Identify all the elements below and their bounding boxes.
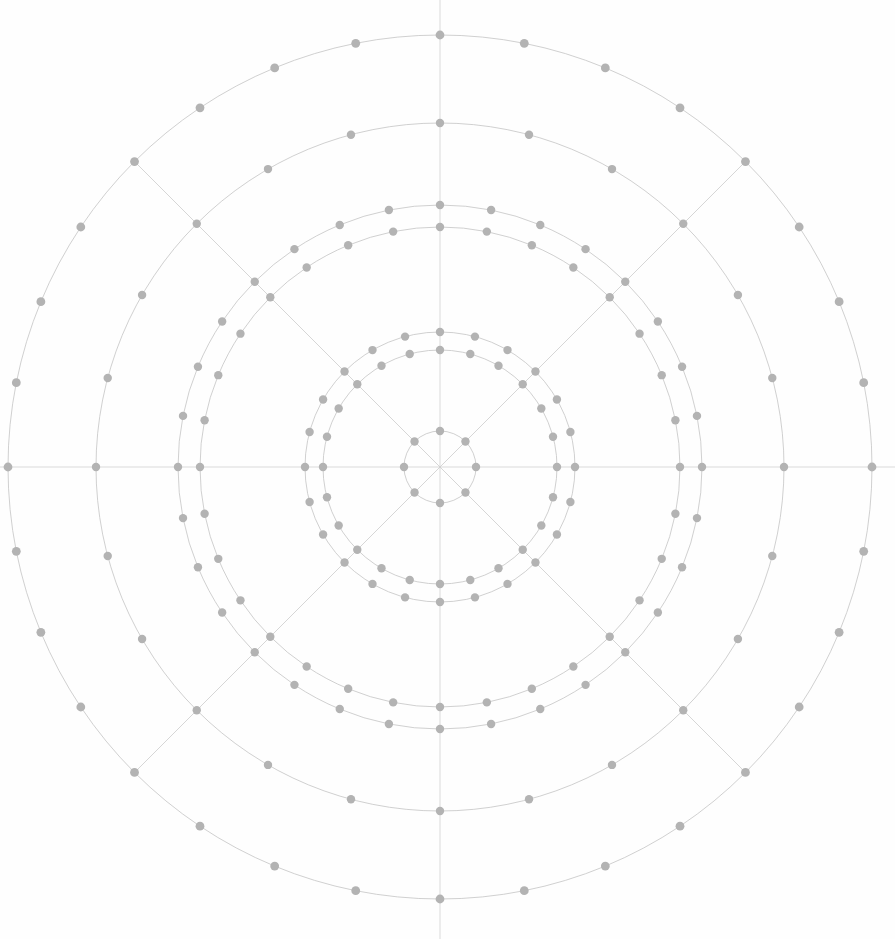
grid-dot <box>520 886 529 895</box>
grid-dot <box>734 635 742 643</box>
background-rect <box>0 0 895 939</box>
grid-dot <box>290 245 298 253</box>
grid-dot <box>795 223 804 232</box>
grid-dot <box>36 297 45 306</box>
grid-dot <box>334 521 342 529</box>
grid-dot <box>344 685 352 693</box>
grid-dot <box>734 291 742 299</box>
grid-dot <box>353 380 361 388</box>
grid-dot <box>472 463 480 471</box>
polar-grid-svg <box>0 0 895 939</box>
grid-dot <box>266 633 274 641</box>
grid-dot <box>218 608 226 616</box>
grid-dot <box>461 437 469 445</box>
grid-dot <box>389 698 397 706</box>
grid-dot <box>319 463 327 471</box>
grid-dot <box>36 628 45 637</box>
grid-dot <box>868 463 877 472</box>
grid-dot <box>410 488 418 496</box>
grid-dot <box>676 103 685 112</box>
grid-dot <box>537 404 545 412</box>
grid-dot <box>698 463 706 471</box>
grid-dot <box>174 463 182 471</box>
grid-dot <box>290 681 298 689</box>
grid-dot <box>400 463 408 471</box>
grid-dot <box>270 63 279 72</box>
grid-dot <box>466 576 474 584</box>
grid-dot <box>385 206 393 214</box>
grid-dot <box>536 221 544 229</box>
grid-dot <box>264 165 272 173</box>
grid-dot <box>344 241 352 249</box>
grid-dot <box>305 498 313 506</box>
grid-dot <box>436 119 444 127</box>
grid-dot <box>336 221 344 229</box>
grid-dot <box>196 103 205 112</box>
grid-dot <box>531 367 539 375</box>
grid-dot <box>537 521 545 529</box>
grid-dot <box>566 428 574 436</box>
grid-dot <box>536 705 544 713</box>
grid-dot <box>264 761 272 769</box>
grid-dot <box>741 157 750 166</box>
grid-dot <box>553 395 561 403</box>
grid-dot <box>654 317 662 325</box>
grid-dot <box>503 346 511 354</box>
grid-dot <box>483 227 491 235</box>
grid-dot <box>368 346 376 354</box>
grid-dot <box>569 263 577 271</box>
grid-dot <box>621 278 629 286</box>
grid-dot <box>12 378 21 387</box>
grid-dot <box>671 416 679 424</box>
grid-dot <box>601 63 610 72</box>
grid-dot <box>635 596 643 604</box>
grid-dot <box>693 412 701 420</box>
grid-dot <box>104 552 112 560</box>
grid-dot <box>553 463 561 471</box>
grid-dot <box>436 201 444 209</box>
grid-dot <box>266 293 274 301</box>
grid-dot <box>494 361 502 369</box>
grid-dot <box>436 346 444 354</box>
grid-dot <box>214 371 222 379</box>
grid-dot <box>494 564 502 572</box>
grid-dot <box>196 463 204 471</box>
grid-dot <box>471 332 479 340</box>
grid-dot <box>319 530 327 538</box>
grid-dot <box>658 371 666 379</box>
grid-dot <box>581 245 589 253</box>
grid-dot <box>200 416 208 424</box>
grid-dot <box>179 412 187 420</box>
grid-dot <box>471 593 479 601</box>
grid-dot <box>351 886 360 895</box>
grid-dot <box>196 822 205 831</box>
grid-dot <box>340 367 348 375</box>
grid-dot <box>236 596 244 604</box>
grid-dot <box>301 463 309 471</box>
polar-grid-canvas <box>0 0 895 939</box>
grid-dot <box>270 862 279 871</box>
grid-dot <box>236 329 244 337</box>
grid-dot <box>621 648 629 656</box>
grid-dot <box>608 165 616 173</box>
grid-dot <box>553 530 561 538</box>
grid-dot <box>368 580 376 588</box>
grid-dot <box>251 648 259 656</box>
grid-dot <box>608 761 616 769</box>
grid-dot <box>353 546 361 554</box>
grid-dot <box>104 374 112 382</box>
grid-dot <box>406 350 414 358</box>
grid-dot <box>436 223 444 231</box>
grid-dot <box>569 662 577 670</box>
grid-dot <box>200 510 208 518</box>
grid-dot <box>654 608 662 616</box>
grid-dot <box>436 499 444 507</box>
grid-dot <box>795 703 804 712</box>
grid-dot <box>466 350 474 358</box>
grid-dot <box>12 547 21 556</box>
grid-dot <box>436 725 444 733</box>
grid-dot <box>601 862 610 871</box>
grid-dot <box>302 662 310 670</box>
grid-dot <box>678 363 686 371</box>
grid-dot <box>436 427 444 435</box>
